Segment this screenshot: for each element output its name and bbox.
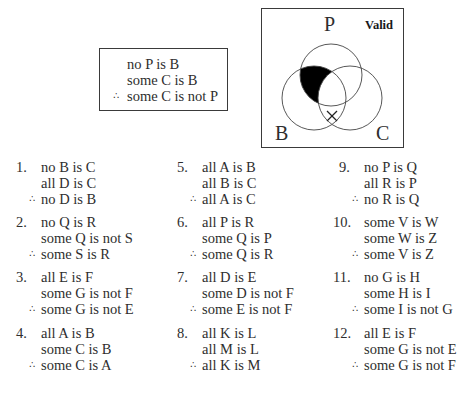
exercise-premise: all P is R (202, 214, 254, 230)
exercise-number: 8. (177, 325, 188, 341)
exercise-premise: some Q is P (202, 230, 272, 246)
exercise-conclusion: all K is M (202, 357, 260, 373)
exercise-number: 4. (16, 325, 27, 341)
exercise-premise: all D is C (41, 175, 96, 191)
exercise-number: 1. (16, 159, 27, 175)
exercise-premise: all E is F (364, 325, 416, 341)
therefore-symbol: ∴ (113, 88, 119, 104)
exercise-premise: all R is P (364, 175, 417, 191)
exercise-number: 6. (177, 214, 188, 230)
exercise-premise: some W is Z (364, 230, 437, 246)
exercise-conclusion: some G is not E (41, 301, 134, 317)
therefore-symbol: ∴ (352, 301, 358, 317)
therefore-symbol: ∴ (352, 246, 358, 262)
exercise-conclusion: some C is A (41, 357, 112, 373)
exercise-premise: some Q is not S (41, 230, 133, 246)
therefore-symbol: ∴ (190, 301, 196, 317)
exercise-premise: no P is Q (364, 159, 417, 175)
exercise-premise: all D is E (202, 269, 256, 285)
exercise-premise: some C is B (41, 341, 112, 357)
exercise-conclusion: some S is R (41, 246, 110, 262)
exercise-conclusion: no D is B (41, 191, 96, 207)
exercise-conclusion: some I is not G (364, 301, 453, 317)
exercise-premise: all E is F (41, 269, 93, 285)
exercise-premise: some H is I (364, 285, 430, 301)
exercise-premise: some G is not E (364, 341, 457, 357)
exercise-number: 2. (16, 214, 27, 230)
exercise-conclusion: some E is not F (202, 301, 292, 317)
therefore-symbol: ∴ (29, 301, 35, 317)
exercise-conclusion: some G is not F (364, 357, 456, 373)
therefore-symbol: ∴ (29, 191, 35, 207)
therefore-symbol: ∴ (29, 357, 35, 373)
therefore-symbol: ∴ (190, 357, 196, 373)
exercise-number: 5. (177, 159, 188, 175)
exercise-premise: no B is C (41, 159, 95, 175)
exercise-premise: no G is H (364, 269, 420, 285)
exercise-premise: all M is L (202, 341, 259, 357)
label-b: B (275, 123, 288, 143)
exercise-number: 9. (339, 159, 350, 175)
therefore-symbol: ∴ (352, 357, 358, 373)
label-c: C (376, 123, 389, 143)
exercise-premise: all K is L (202, 325, 256, 341)
exercise-conclusion: no R is Q (364, 191, 419, 207)
therefore-symbol: ∴ (29, 246, 35, 262)
exercise-premise: some G is not F (41, 285, 133, 301)
exercise-number: 10. (333, 214, 351, 230)
therefore-symbol: ∴ (190, 191, 196, 207)
exercise-premise: some D is not F (202, 285, 294, 301)
exercise-conclusion: some V is Z (364, 246, 434, 262)
exercise-number: 7. (177, 269, 188, 285)
therefore-symbol: ∴ (190, 246, 196, 262)
example-premise-2: some C is B (127, 72, 198, 88)
example-premise-1: no P is B (127, 56, 179, 72)
exercise-number: 11. (333, 269, 351, 285)
exercise-premise: some V is W (364, 214, 439, 230)
exercise-conclusion: some Q is R (202, 246, 273, 262)
x-mark-icon (327, 111, 337, 121)
label-p: P (324, 14, 335, 34)
therefore-symbol: ∴ (352, 191, 358, 207)
exercise-premise: all B is C (202, 175, 256, 191)
exercise-number: 12. (333, 325, 351, 341)
exercise-number: 3. (16, 269, 27, 285)
verdict-label: Valid (365, 17, 393, 33)
exercise-premise: all A is B (41, 325, 95, 341)
exercise-premise: all A is B (202, 159, 256, 175)
exercise-premise: no Q is R (41, 214, 96, 230)
example-conclusion: some C is not P (127, 88, 218, 104)
exercise-conclusion: all A is C (202, 191, 256, 207)
